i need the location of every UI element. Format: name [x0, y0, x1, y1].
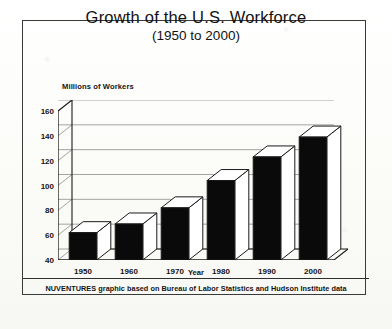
x-axis-label: Year	[0, 268, 392, 277]
y-tick-label: 80	[45, 206, 54, 215]
y-axis-label: Millions of Workers	[62, 82, 134, 91]
y-tick-label: 140	[41, 131, 54, 140]
y-tick-label: 100	[41, 181, 54, 190]
plot-area: 406080100120140160 195019601970198019902…	[58, 100, 348, 260]
footer-divider	[23, 278, 369, 279]
chart-subtitle: (1950 to 2000)	[0, 28, 392, 43]
y-tick-label: 60	[45, 231, 54, 240]
y-tick-label: 160	[41, 107, 54, 116]
y-tick-label: 40	[45, 256, 54, 265]
title-block: Growth of the U.S. Workforce (1950 to 20…	[0, 8, 392, 43]
y-tick-label: 120	[41, 156, 54, 165]
source-note: NUVENTURES graphic based on Bureau of La…	[0, 284, 392, 293]
chart-title: Growth of the U.S. Workforce	[0, 8, 392, 27]
y-axis-ticks: 406080100120140160	[58, 100, 348, 260]
